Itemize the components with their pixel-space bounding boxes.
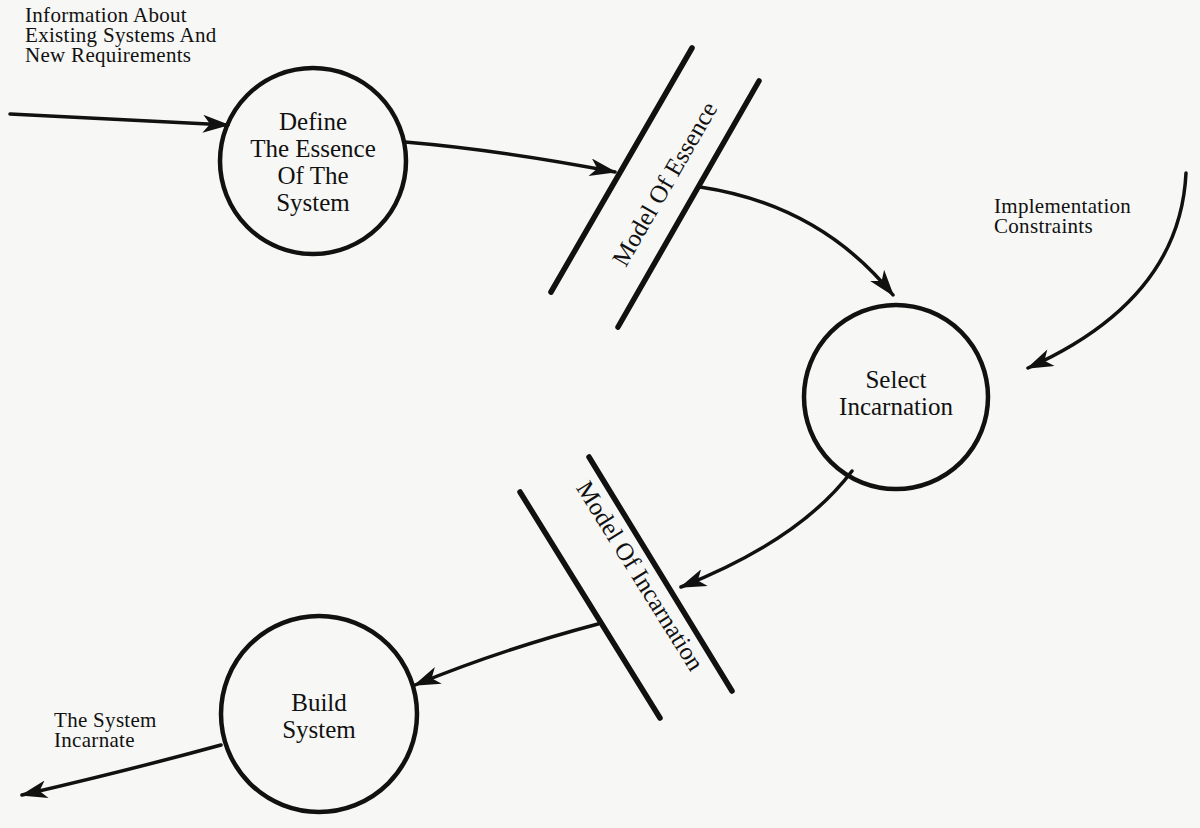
flow-define-to-essence	[405, 142, 615, 172]
flow-build-to-output	[22, 745, 221, 795]
dfd-drawing	[0, 0, 1200, 828]
flow-select-to-incarnation	[681, 471, 852, 587]
flow-incarnation-to-build	[415, 624, 598, 685]
diagram-canvas: Information About Existing Systems And N…	[0, 0, 1200, 828]
process-label-build: Build System	[219, 689, 419, 743]
flow-essence-to-select	[700, 187, 893, 295]
store-incarnation-bar-left	[520, 492, 660, 718]
flow-info-to-define	[10, 114, 228, 125]
label-system-incarnate: The System Incarnate	[54, 710, 157, 750]
label-information-input: Information About Existing Systems And N…	[25, 5, 217, 65]
label-implementation-constraints: Implementation Constraints	[994, 196, 1131, 236]
process-label-define: Define The Essence Of The System	[213, 108, 413, 216]
process-label-select: Select Incarnation	[796, 366, 996, 420]
